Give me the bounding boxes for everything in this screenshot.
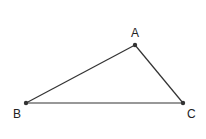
triangle-vertices	[24, 43, 185, 105]
label-b: B	[13, 107, 21, 121]
vertex-labels: ABC	[13, 26, 196, 121]
vertex-b	[24, 101, 28, 105]
label-c: C	[187, 107, 196, 121]
segment-ab	[26, 45, 135, 103]
segment-ca	[135, 45, 183, 103]
vertex-c	[181, 101, 185, 105]
vertex-a	[133, 43, 137, 47]
label-a: A	[131, 26, 139, 40]
triangle-edges	[26, 45, 183, 103]
triangle-diagram: ABC	[0, 0, 206, 139]
